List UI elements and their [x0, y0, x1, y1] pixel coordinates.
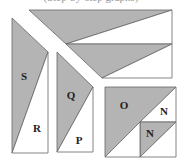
label-n-lower: N — [146, 127, 154, 139]
square-piece: O N N — [105, 87, 176, 157]
top-trapezoid-piece — [29, 10, 172, 78]
label-q: Q — [67, 89, 76, 101]
left-piece: S R — [12, 18, 48, 153]
label-p: P — [76, 134, 83, 146]
tangram-diagram: S R Q P O N N — [0, 0, 182, 161]
label-r: R — [33, 122, 42, 134]
label-n-upper: N — [160, 105, 168, 117]
label-s: S — [21, 70, 27, 82]
label-o: O — [120, 99, 129, 111]
middle-piece: Q P — [57, 52, 93, 152]
